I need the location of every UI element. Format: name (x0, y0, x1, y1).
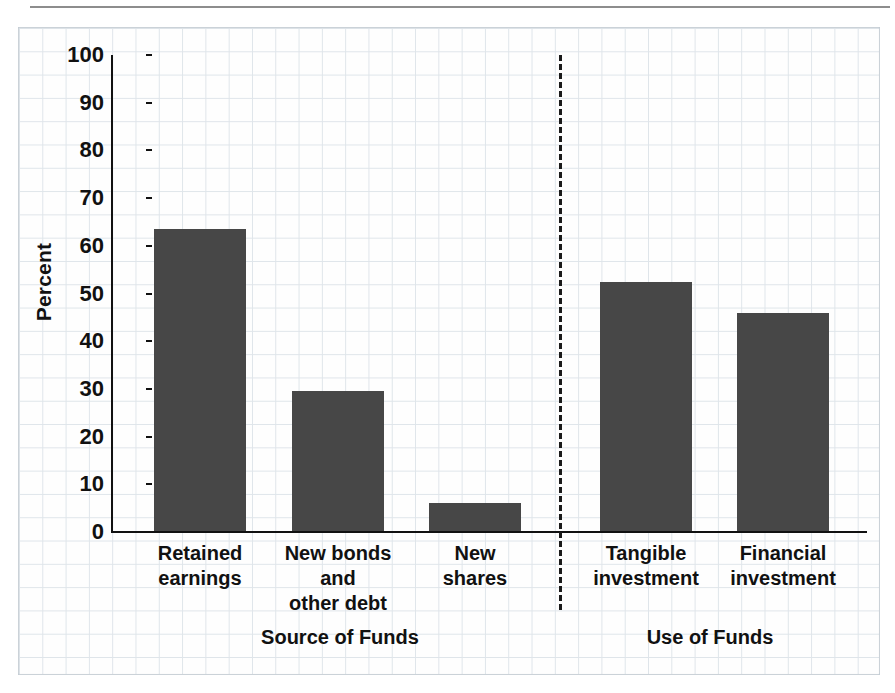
y-axis-tick-label: 100 (42, 44, 104, 66)
bar (154, 229, 246, 532)
y-axis-tick-mark (146, 54, 152, 56)
y-axis-tick-mark (146, 436, 152, 438)
y-axis-tick-label: 70 (42, 187, 104, 209)
y-axis-tick-mark (146, 197, 152, 199)
category-label: New shares (385, 541, 565, 591)
y-axis-tick-label: 50 (42, 283, 104, 305)
category-label: Financial investment (693, 541, 873, 591)
bar (600, 282, 692, 532)
y-axis-tick-label: 60 (42, 235, 104, 257)
group-divider-dashed-line (559, 55, 562, 610)
y-axis-tick-label: 30 (42, 378, 104, 400)
y-axis-tick-mark (146, 340, 152, 342)
y-axis-line (111, 55, 113, 533)
y-axis-tick-label: 0 (42, 521, 104, 543)
x-axis-line (111, 531, 867, 533)
y-axis-tick-mark (146, 149, 152, 151)
y-axis-tick-mark (146, 293, 152, 295)
group-label: Source of Funds (190, 626, 490, 649)
bar (429, 503, 521, 532)
y-axis-tick-label: 40 (42, 330, 104, 352)
plot-area: Percent 1009080706050403020100 Retained … (0, 0, 895, 693)
y-axis-tick-mark (146, 245, 152, 247)
y-axis-tick-label: 10 (42, 473, 104, 495)
bar (292, 391, 384, 532)
y-axis-tick-label: 80 (42, 139, 104, 161)
y-axis-tick-label: 90 (42, 92, 104, 114)
y-axis-tick-mark (146, 483, 152, 485)
y-axis-tick-mark (146, 102, 152, 104)
chart-figure: Percent 1009080706050403020100 Retained … (0, 0, 895, 693)
y-axis-tick-label: 20 (42, 426, 104, 448)
bar (737, 313, 829, 532)
group-label: Use of Funds (560, 626, 860, 649)
y-axis-tick-mark (146, 388, 152, 390)
